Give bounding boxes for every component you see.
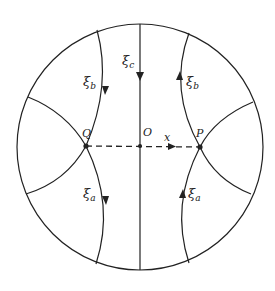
separatrix-q-lower bbox=[26, 146, 86, 194]
point-q bbox=[83, 143, 88, 148]
label-q: Q bbox=[82, 127, 91, 140]
separatrix-p-lower bbox=[200, 147, 251, 194]
separatrix-q-upper bbox=[28, 97, 86, 146]
flow-diagram: ξc ξb ξb ξa ξa Q O x P bbox=[0, 0, 275, 291]
point-p bbox=[197, 144, 202, 149]
xi-b-left-arrow-icon bbox=[102, 86, 109, 95]
xi-a-left-flow-line bbox=[86, 146, 104, 264]
label-xi-b-left: ξb bbox=[83, 74, 96, 91]
xi-b-right-arrow-icon bbox=[176, 71, 183, 80]
x-axis-arrow-icon bbox=[168, 143, 176, 150]
xi-c-arrow-icon bbox=[136, 72, 144, 81]
label-xi-b-right: ξb bbox=[186, 74, 199, 91]
label-x: x bbox=[164, 131, 171, 144]
point-o bbox=[138, 144, 142, 148]
label-p: P bbox=[195, 127, 204, 140]
label-o: O bbox=[143, 126, 152, 139]
label-xi-a-right: ξa bbox=[188, 186, 201, 203]
label-xi-c: ξc bbox=[122, 53, 134, 70]
dashed-x-axis bbox=[86, 146, 200, 147]
label-xi-a-left: ξa bbox=[83, 186, 96, 203]
separatrix-p-upper bbox=[200, 102, 253, 147]
xi-a-right-flow-line bbox=[182, 147, 200, 263]
